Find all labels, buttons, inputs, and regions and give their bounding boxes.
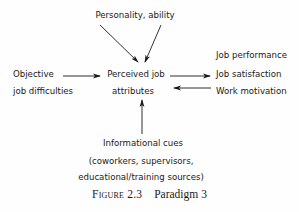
node-informational-cues-line2: (coworkers, supervisors, bbox=[89, 156, 194, 166]
node-objective-line1: Objective bbox=[13, 69, 54, 79]
node-objective-line2: job difficulties bbox=[13, 86, 73, 96]
node-personality-ability: Personality, ability bbox=[95, 10, 174, 20]
arrow-personality-right bbox=[145, 25, 161, 62]
figure-caption: Figure 2.3Paradigm 3 bbox=[0, 188, 299, 200]
node-work-motivation: Work motivation bbox=[216, 86, 287, 96]
node-job-performance: Job performance bbox=[216, 50, 287, 60]
node-informational-cues-line3: educational/training sources) bbox=[78, 172, 204, 182]
arrow-personality-left bbox=[100, 25, 138, 62]
node-perceived-line1: Perceived job bbox=[107, 69, 165, 79]
node-perceived-line2: attributes bbox=[112, 86, 154, 96]
node-informational-cues-line1: Informational cues bbox=[103, 138, 183, 148]
figure-label: Figure 2.3 bbox=[92, 188, 142, 200]
node-job-satisfaction: Job satisfaction bbox=[216, 69, 281, 79]
figure-title: Paradigm 3 bbox=[154, 188, 207, 200]
